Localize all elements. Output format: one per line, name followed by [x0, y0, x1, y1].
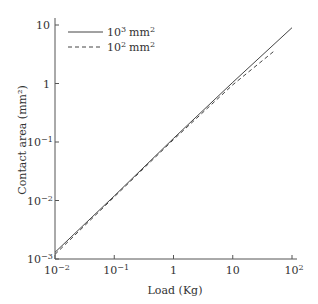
log-log-line-chart: 10−210−1110102 10−310−210−1110 103mm2 10…: [0, 0, 318, 304]
series-line-1: [55, 51, 274, 254]
y-axis-title: Contact area (mm²): [16, 85, 29, 194]
x-axis-title: Load (Kg): [148, 284, 203, 297]
y-tick-label: 10: [36, 19, 50, 32]
legend-label-series-1: 102mm2: [107, 40, 155, 54]
y-axis-ticks: 10−310−210−1110: [27, 19, 59, 266]
x-axis-ticks: 10−210−1110102: [44, 255, 303, 277]
axes: [55, 18, 297, 259]
x-tick-label: 10−1: [103, 263, 129, 277]
x-tick-label: 102: [284, 263, 303, 277]
y-tick-label: 1: [43, 78, 50, 91]
y-tick-label: 10−1: [27, 135, 53, 149]
legend: 103mm2 102mm2: [68, 25, 155, 54]
series-layer: [55, 28, 292, 255]
x-tick-label: 10: [226, 264, 240, 277]
y-tick-label: 10−2: [27, 194, 53, 208]
x-tick-label: 10−2: [44, 263, 70, 277]
legend-label-series-0: 103mm2: [107, 25, 155, 39]
x-tick-label: 1: [170, 264, 177, 277]
